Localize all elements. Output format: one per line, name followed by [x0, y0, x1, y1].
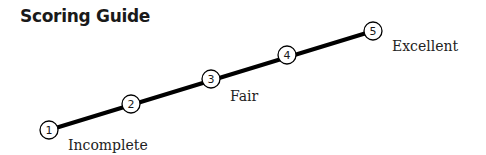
svg-text:5: 5: [370, 25, 377, 38]
scoring-scale: 1 2 3 4 5: [0, 0, 486, 155]
scale-node-3: 3: [202, 70, 220, 88]
scale-node-5: 5: [364, 22, 382, 40]
svg-text:3: 3: [208, 73, 215, 86]
scale-node-4: 4: [278, 46, 296, 64]
svg-text:1: 1: [46, 124, 53, 137]
svg-text:4: 4: [284, 49, 291, 62]
label-incomplete: Incomplete: [68, 137, 148, 153]
scale-node-1: 1: [40, 121, 58, 139]
label-fair: Fair: [230, 88, 258, 104]
scale-node-2: 2: [122, 95, 140, 113]
svg-text:2: 2: [128, 98, 135, 111]
label-excellent: Excellent: [392, 38, 458, 54]
